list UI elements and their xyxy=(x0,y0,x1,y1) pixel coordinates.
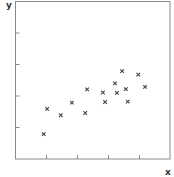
data-point-x-marker xyxy=(124,87,128,91)
data-point-x-marker xyxy=(103,100,107,104)
data-point-x-marker xyxy=(115,91,119,95)
scatter-chart: y x xyxy=(0,0,174,177)
data-point-x-marker xyxy=(70,101,74,105)
x-axis-label: x xyxy=(165,167,171,177)
data-point-x-marker xyxy=(113,82,117,86)
y-axis-ticks xyxy=(16,33,20,128)
plot-frame xyxy=(16,2,171,160)
x-axis-ticks xyxy=(47,155,140,159)
data-points xyxy=(42,69,147,136)
data-point-x-marker xyxy=(59,113,63,117)
data-point-x-marker xyxy=(126,100,130,104)
data-point-x-marker xyxy=(143,85,147,89)
data-point-x-marker xyxy=(85,88,89,92)
data-point-x-marker xyxy=(136,73,140,77)
data-point-x-marker xyxy=(45,107,49,111)
data-point-x-marker xyxy=(42,132,46,136)
y-axis-label: y xyxy=(6,0,12,10)
data-point-x-marker xyxy=(120,69,124,73)
data-point-x-marker xyxy=(101,91,105,95)
data-point-x-marker xyxy=(83,111,87,115)
